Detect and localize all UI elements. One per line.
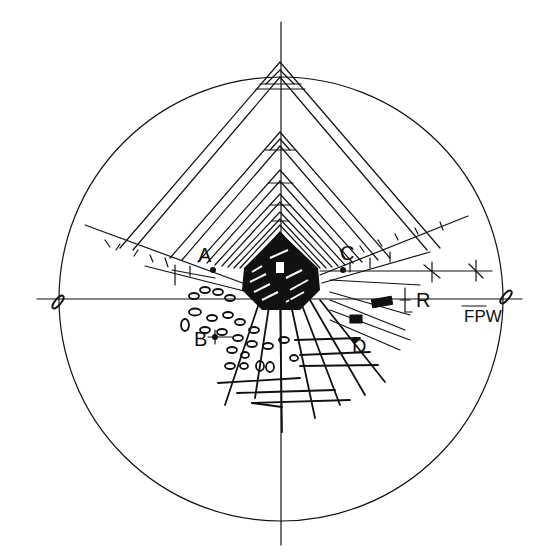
- left-wall: [85, 225, 248, 292]
- label-b: B: [194, 328, 207, 350]
- label-r: R: [416, 289, 430, 311]
- label-d: D: [352, 335, 366, 357]
- tunnel-end: [242, 232, 320, 310]
- signature: FPW: [464, 307, 502, 326]
- point-c-marker: [340, 267, 346, 273]
- left-horizon-marker: [51, 294, 66, 310]
- label-c: C: [340, 242, 354, 264]
- right-wall: [320, 216, 492, 350]
- label-a: A: [198, 244, 212, 266]
- perspective-drawing: A B C D R FPW: [0, 0, 553, 557]
- right-horizon-marker: [499, 289, 514, 305]
- point-a-marker: [210, 267, 216, 273]
